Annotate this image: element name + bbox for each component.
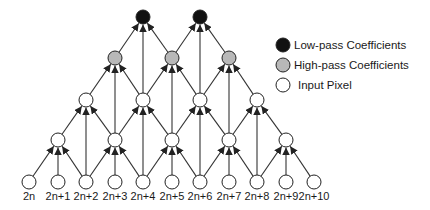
edges <box>33 23 310 176</box>
arrow-edge <box>119 146 139 176</box>
pixel-node <box>165 133 179 147</box>
input-index-label: 2n <box>23 190 35 202</box>
pixel-node <box>279 133 293 147</box>
pixel-node <box>279 175 293 189</box>
arrow-edge <box>147 23 168 52</box>
input-index-label: 2n+3 <box>103 190 128 202</box>
pixel-node <box>51 133 65 147</box>
arrow-edge <box>119 64 139 94</box>
arrow-edge <box>204 23 225 52</box>
pixel-node <box>108 175 122 189</box>
input-index-label: 2n+8 <box>245 190 270 202</box>
lifting-scheme-diagram: 2n2n+12n+22n+32n+42n+52n+62n+72n+82n+92n… <box>0 0 430 210</box>
pixel-node <box>165 175 179 189</box>
arrow-edge <box>261 146 282 176</box>
high-pass-swatch-icon <box>276 58 290 72</box>
arrow-edge <box>33 146 54 176</box>
arrow-edge <box>176 23 196 52</box>
input-index-label: 2n+5 <box>160 190 185 202</box>
pixel-node <box>79 93 93 107</box>
arrow-edge <box>176 146 196 176</box>
arrow-edge <box>233 64 253 94</box>
pixel-node <box>51 175 65 189</box>
arrow-edge <box>147 146 168 176</box>
pixel-node <box>193 175 207 189</box>
pixel-node <box>136 175 150 189</box>
arrow-edge <box>90 106 110 134</box>
pixel-node <box>79 175 93 189</box>
input-index-label: 2n+6 <box>188 190 213 202</box>
low-pass-swatch-icon <box>276 38 290 52</box>
arrow-edge <box>90 64 111 94</box>
arrow-edge <box>90 146 111 176</box>
input-labels: 2n2n+12n+22n+32n+42n+52n+62n+72n+82n+92n… <box>23 190 330 202</box>
pixel-node <box>108 133 122 147</box>
input-index-label: 2n+7 <box>217 190 242 202</box>
arrow-edge <box>62 106 82 134</box>
input-index-label: 2n+9 <box>274 190 299 202</box>
pixel-node <box>250 93 264 107</box>
arrow-edge <box>290 146 310 176</box>
pixel-node <box>193 93 207 107</box>
high-pass-node <box>165 51 179 65</box>
legend-label: High-pass Coefficients <box>294 59 409 71</box>
input-index-label: 2n+4 <box>131 190 156 202</box>
high-pass-node <box>222 51 236 65</box>
low-pass-node <box>193 10 207 24</box>
arrow-edge <box>62 146 82 176</box>
arrow-edge <box>233 146 253 176</box>
arrow-edge <box>176 106 196 134</box>
arrow-edge <box>204 146 225 176</box>
legend-item-low-pass: Low-pass Coefficients <box>276 38 407 52</box>
arrow-edge <box>176 64 196 94</box>
arrow-edge <box>147 106 167 134</box>
arrow-edge <box>233 106 253 134</box>
pixel-node <box>136 93 150 107</box>
legend-item-input-pixel: Input Pixel <box>276 78 352 92</box>
arrow-edge <box>204 64 225 94</box>
pixel-node <box>222 175 236 189</box>
input-index-label: 2n+10 <box>299 190 330 202</box>
input-pixel-swatch-icon <box>276 78 290 92</box>
input-index-label: 2n+1 <box>46 190 71 202</box>
high-pass-node <box>108 51 122 65</box>
legend-label: Low-pass Coefficients <box>294 39 407 51</box>
arrow-edge <box>204 106 224 134</box>
pixel-node <box>250 175 264 189</box>
legend-label: Input Pixel <box>298 79 352 91</box>
pixel-node <box>22 175 36 189</box>
low-pass-node <box>136 10 150 24</box>
legend-item-high-pass: High-pass Coefficients <box>276 58 409 72</box>
arrow-edge <box>261 106 281 134</box>
arrow-edge <box>119 23 139 52</box>
arrow-edge <box>119 106 139 134</box>
pixel-node <box>307 175 321 189</box>
input-index-label: 2n+2 <box>74 190 99 202</box>
legend: Low-pass Coefficients High-pass Coeffici… <box>276 38 409 92</box>
pixel-node <box>222 133 236 147</box>
arrow-edge <box>147 64 168 94</box>
